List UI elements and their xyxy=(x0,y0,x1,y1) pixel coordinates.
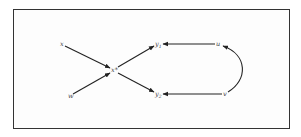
node-x: x xyxy=(60,40,64,48)
edge-v-to-u-curved xyxy=(223,46,242,92)
edge-xstar-to-y2 xyxy=(118,73,154,92)
node-w: w xyxy=(68,92,74,100)
edge-x-to-xstar xyxy=(65,46,110,68)
node-y2: y2 xyxy=(154,90,162,99)
node-v: v xyxy=(223,90,227,98)
node-y1: y1 xyxy=(154,40,162,49)
node-xstar: x* xyxy=(111,66,119,74)
graph-diagram: x w x* y1 y2 u v xyxy=(0,0,301,137)
node-u: u xyxy=(216,40,220,48)
edge-xstar-to-y1 xyxy=(118,46,154,67)
edge-w-to-xstar xyxy=(73,73,110,94)
